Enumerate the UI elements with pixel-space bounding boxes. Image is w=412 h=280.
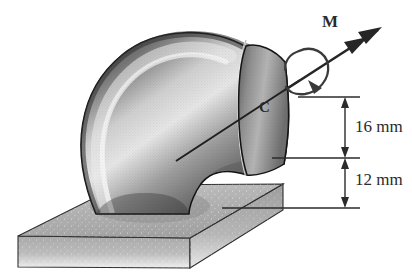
curved-arrow-icon <box>285 49 328 94</box>
moment-vector-head-inner <box>344 37 368 54</box>
dimension-label-lower: 12 mm <box>355 170 403 190</box>
rotation-arc-back <box>285 51 299 70</box>
figure-canvas: M C 16 mm 12 mm <box>0 0 412 280</box>
rotation-arc <box>286 49 328 94</box>
figure-artwork <box>0 0 412 280</box>
dimension-arrow-upper-head-bottom <box>341 147 349 158</box>
moment-label: M <box>322 12 339 32</box>
dimension-arrow-upper-head-top <box>341 97 349 108</box>
base-plate-front-texture <box>18 236 190 268</box>
dimension-label-upper: 16 mm <box>355 117 403 137</box>
moment-vector-icon <box>285 27 382 90</box>
centroid-label: C <box>259 99 270 116</box>
dimension-arrow-lower-head-top <box>341 158 349 169</box>
dimension-arrow-lower-head-bottom <box>341 197 349 208</box>
